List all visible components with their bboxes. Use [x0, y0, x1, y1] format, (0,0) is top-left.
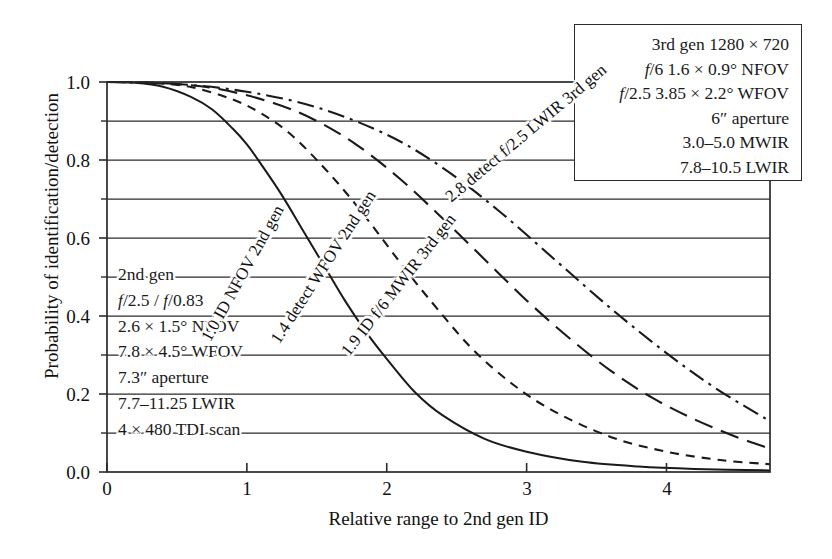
x-tick-label-1: 1: [227, 478, 267, 500]
annotation-line-2: f/2.5 / f/0.83: [118, 288, 290, 314]
y-tick-label-0.2: 0.2: [38, 384, 90, 406]
y-tick-label-0.0: 0.0: [38, 462, 90, 484]
y-tick-label-0.8: 0.8: [38, 150, 90, 172]
annotation-line-4: 7.8 × 4.5° WFOV: [118, 339, 290, 365]
annotation-line-5: 7.3″ aperture: [118, 365, 290, 391]
x-axis-label: Relative range to 2nd gen ID: [107, 508, 770, 530]
annotation-line-1: 2nd gen: [118, 262, 290, 288]
legend-line-4: 6″ aperture: [575, 106, 789, 131]
y-tick-label-0.6: 0.6: [38, 228, 90, 250]
legend-line-1: 3rd gen 1280 × 720: [575, 32, 789, 57]
y-tick-label-0.4: 0.4: [38, 306, 90, 328]
legend-box-3rd-gen: 3rd gen 1280 × 720 f/6 1.6 × 0.9° NFOV f…: [574, 24, 802, 181]
figure-chart-probability-vs-range: Probability of identification/detection …: [0, 0, 832, 559]
legend-line-6: 7.8–10.5 LWIR: [575, 155, 789, 180]
annotation-box-2nd-gen: 2nd gen f/2.5 / f/0.83 2.6 × 1.5° NFOV 7…: [118, 262, 290, 443]
y-tick-label-1.0: 1.0: [38, 72, 90, 94]
x-tick-label-3: 3: [507, 478, 547, 500]
x-tick-label-4: 4: [647, 478, 687, 500]
annotation-line-6: 7.7–11.25 LWIR: [118, 391, 290, 417]
x-tick-label-2: 2: [367, 478, 407, 500]
legend-line-5: 3.0–5.0 MWIR: [575, 130, 789, 155]
x-tick-label-0: 0: [87, 478, 127, 500]
legend-line-3: f/2.5 3.85 × 2.2° WFOV: [575, 81, 789, 106]
annotation-line-7: 4 × 480 TDI scan: [118, 417, 290, 443]
